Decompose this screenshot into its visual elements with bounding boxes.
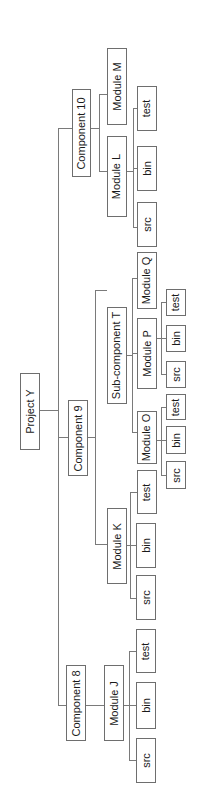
node-module-o-bin: bin	[166, 426, 186, 454]
node-module-j-src: src	[136, 738, 156, 783]
node-module-p-src: src	[166, 361, 186, 388]
connector	[99, 94, 100, 172]
connector	[99, 94, 107, 95]
node-label: Component 9	[73, 405, 84, 471]
node-module-k-src: src	[136, 575, 156, 620]
node-label: src	[140, 753, 151, 768]
node-module-l: Module L	[107, 136, 127, 217]
node-module-p-bin: bin	[166, 325, 186, 352]
node-module-j: Module J	[104, 665, 124, 741]
node-label: Module J	[109, 681, 120, 726]
node-label: bin	[171, 331, 182, 346]
node-label: bin	[142, 161, 153, 176]
node-module-o-src: src	[166, 461, 186, 489]
node-label: bin	[141, 698, 152, 713]
node-label: test	[170, 294, 181, 312]
tree-diagram: Project Y Component 10 Component 9 Compo…	[0, 0, 203, 812]
connector	[58, 437, 68, 438]
node-module-p: Module P	[137, 318, 157, 389]
connector	[129, 705, 136, 706]
connector	[129, 651, 136, 652]
connector	[39, 410, 58, 411]
node-label: Component 10	[76, 97, 87, 169]
node-module-k-test: test	[137, 470, 157, 514]
connector	[130, 492, 137, 493]
node-label: Module M	[112, 62, 123, 110]
node-module-k: Module K	[107, 508, 127, 584]
connector	[129, 760, 136, 761]
node-module-j-test: test	[136, 629, 156, 673]
node-module-o-test: test	[166, 394, 186, 420]
node-label: test	[141, 100, 152, 118]
node-module-l-src: src	[137, 202, 157, 247]
node-label: Module P	[142, 330, 153, 376]
node-subcomponent-t: Sub-component T	[107, 307, 127, 404]
node-component-8: Component 8	[66, 665, 86, 741]
node-label: bin	[141, 538, 152, 553]
connector	[95, 290, 96, 545]
node-label: test	[140, 642, 151, 660]
connector	[86, 705, 104, 706]
node-label: src	[141, 217, 152, 232]
node-component-10: Component 10	[72, 89, 91, 177]
connector	[95, 544, 107, 545]
connector	[58, 705, 66, 706]
node-label: Module O	[142, 414, 153, 462]
connector	[58, 128, 72, 129]
connector-trunk	[58, 128, 59, 706]
connector	[87, 437, 95, 438]
node-module-l-test: test	[137, 86, 157, 131]
node-label: bin	[171, 433, 182, 448]
node-project-y: Project Y	[20, 373, 40, 450]
node-label: Module L	[112, 154, 123, 199]
connector	[99, 171, 107, 172]
node-module-o: Module O	[137, 411, 157, 464]
node-label: Module K	[112, 523, 123, 569]
connector	[95, 290, 107, 291]
node-label: Project Y	[25, 389, 36, 433]
node-module-q: Module Q	[137, 252, 157, 309]
node-component-9: Component 9	[68, 400, 88, 476]
node-module-j-bin: bin	[136, 682, 156, 729]
node-label: src	[170, 367, 181, 382]
node-label: Module Q	[142, 257, 153, 305]
connector	[132, 278, 133, 433]
node-module-p-test: test	[166, 289, 186, 316]
node-label: src	[140, 590, 151, 605]
node-module-m: Module M	[107, 48, 127, 125]
connector	[129, 651, 130, 761]
node-label: Component 8	[71, 670, 82, 736]
node-label: test	[170, 398, 181, 416]
node-label: src	[170, 468, 181, 483]
connector	[161, 407, 162, 476]
node-label: test	[141, 483, 152, 501]
node-module-k-bin: bin	[136, 523, 156, 568]
connector	[90, 128, 99, 129]
node-module-l-bin: bin	[137, 146, 157, 191]
node-label: Sub-component T	[112, 312, 123, 399]
